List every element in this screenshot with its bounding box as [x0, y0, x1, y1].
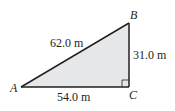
side-label-bc: 31.0 m [133, 48, 167, 62]
vertex-label-b: B [130, 8, 138, 22]
vertex-label-c: C [129, 88, 138, 102]
triangle-diagram: A B C 62.0 m 31.0 m 54.0 m [0, 0, 175, 111]
vertex-label-a: A [9, 81, 18, 95]
side-label-ac: 54.0 m [57, 90, 91, 104]
side-label-ab: 62.0 m [50, 36, 84, 50]
